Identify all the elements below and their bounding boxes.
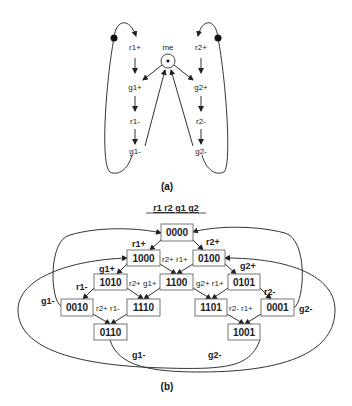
state-vector-header: r1 r2 g1 g2 xyxy=(153,203,199,213)
edge-label-g2-plus: g2+ xyxy=(240,261,256,271)
edge-0010-0110 xyxy=(93,314,110,324)
edge-1000-1010 xyxy=(117,264,127,274)
node-0000: 0000 xyxy=(161,224,193,241)
arrow-me-g2p xyxy=(174,65,193,80)
label-g2-minus: g2- xyxy=(195,147,207,156)
node-label: 0100 xyxy=(198,253,221,264)
edge-label-g1-plus: g1+ xyxy=(99,264,115,274)
edge-label-g2-minus-right: g2- xyxy=(299,304,313,314)
node-label: 0000 xyxy=(166,227,189,238)
node-1110: 1110 xyxy=(127,299,160,316)
edge-label-g1-minus-bottom: g1- xyxy=(132,350,146,360)
edge-label-r2-plus-r1-minus: r2+ r1- xyxy=(96,304,120,313)
node-1101: 1101 xyxy=(195,299,227,316)
edge-label-r2-plus-g1-plus: r2+ g1+ xyxy=(129,279,157,288)
label-g1-plus: g1+ xyxy=(128,83,142,92)
node-0100: 0100 xyxy=(193,250,225,266)
left-loop-top-edge xyxy=(114,23,136,38)
edge-label-g1-minus-left: g1- xyxy=(41,296,55,306)
edge-0100-1100 xyxy=(177,264,193,274)
edge-1110-0110 xyxy=(111,314,127,324)
edge-0000-1000 xyxy=(150,240,161,250)
edge-1100-1110 xyxy=(144,288,160,299)
arrow-g1m-me xyxy=(145,70,165,146)
node-label: 0001 xyxy=(266,302,289,313)
edge-label-r2-minus: r2- xyxy=(264,287,276,297)
label-g2-plus: g2+ xyxy=(194,83,208,92)
node-label: 1110 xyxy=(133,302,155,313)
figure-a: r1+ g1+ r1- g1- r2+ g2+ r2- g2- me (a) xyxy=(105,23,228,192)
edge-1101-1001 xyxy=(227,314,244,324)
node-1000: 1000 xyxy=(127,250,160,266)
caption-a: (a) xyxy=(161,181,173,192)
node-label: 1101 xyxy=(200,302,222,313)
edge-0101-1101 xyxy=(212,288,228,299)
label-r2-plus: r2+ xyxy=(195,43,207,52)
state-diagram-canvas: r1+ g1+ r1- g1- r2+ g2+ r2- g2- me (a) r… xyxy=(0,0,352,406)
node-0110: 0110 xyxy=(94,324,127,340)
edge-label-g2-plus-r1-plus: g2+ r1+ xyxy=(196,279,224,288)
node-label: 1001 xyxy=(233,327,256,338)
edge-0100-0101 xyxy=(225,264,236,274)
node-label: 0010 xyxy=(66,302,89,313)
edge-1010-1110 xyxy=(127,288,143,299)
label-g1-minus: g1- xyxy=(129,147,141,156)
node-label: 1000 xyxy=(132,253,155,264)
edge-label-r1-plus: r1+ xyxy=(132,239,146,249)
label-r1-minus: r1- xyxy=(130,117,140,126)
label-r1-plus: r1+ xyxy=(129,43,141,52)
node-label: 0101 xyxy=(233,277,256,288)
label-r2-minus: r2- xyxy=(196,117,206,126)
node-1010: 1010 xyxy=(94,274,127,290)
arrow-me-g1p xyxy=(143,65,162,80)
node-label: 1100 xyxy=(166,277,188,288)
me-token-dot xyxy=(166,59,169,62)
left-loop-edge xyxy=(105,38,132,173)
node-label: 0110 xyxy=(100,327,122,338)
edge-label-g2-minus-bottom: g2- xyxy=(208,350,222,360)
node-label: 1010 xyxy=(99,277,122,288)
node-0101: 0101 xyxy=(228,274,260,290)
edge-1000-1100 xyxy=(160,264,176,274)
caption-b: (b) xyxy=(161,381,174,392)
figure-b: r1 r2 g1 g2 0000 xyxy=(18,203,335,392)
edge-1100-1101 xyxy=(193,288,211,299)
edge-label-r2-plus-r1-plus: r2+ r1+ xyxy=(162,255,188,264)
left-token-dot xyxy=(111,35,118,42)
edge-0000-0100 xyxy=(193,240,203,250)
node-1001: 1001 xyxy=(228,324,260,340)
node-0001: 0001 xyxy=(261,299,294,316)
edge-label-r2-plus: r2+ xyxy=(206,237,220,247)
right-token-dot xyxy=(215,35,222,42)
label-me: me xyxy=(162,43,174,52)
edge-label-r2-minus-r1-plus: r2- r1+ xyxy=(229,304,253,313)
right-loop-top-edge xyxy=(198,23,218,38)
edge-0001-1001 xyxy=(245,314,261,324)
node-0010: 0010 xyxy=(61,299,93,316)
edge-label-r1-minus: r1- xyxy=(76,282,88,292)
arrow-g2m-me xyxy=(171,70,193,146)
node-1100: 1100 xyxy=(160,274,193,290)
